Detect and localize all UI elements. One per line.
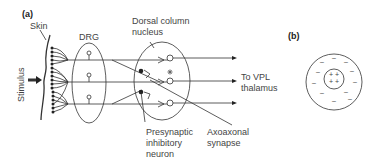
receptor-branches [52, 48, 68, 112]
neural-circuit-diagram: ++ ++ – –– –– –– –– –– [0, 0, 380, 165]
receptor-endings [51, 47, 55, 114]
svg-text:–: – [344, 58, 348, 65]
svg-text:–: – [312, 79, 316, 86]
svg-text:+: + [329, 78, 333, 85]
skin-line [41, 35, 50, 120]
svg-text:+: + [335, 78, 339, 85]
svg-text:–: – [350, 67, 354, 74]
arrowheads [232, 56, 237, 105]
svg-text:–: – [332, 54, 336, 61]
svg-text:+: + [335, 71, 339, 78]
drg-cell-bodies [87, 51, 91, 104]
svg-text:–: – [348, 95, 352, 102]
svg-text:–: – [320, 58, 324, 65]
svg-text:–: – [332, 97, 336, 104]
svg-text:+: + [329, 71, 333, 78]
svg-text:–: – [320, 89, 324, 96]
svg-text:–: – [316, 68, 320, 75]
svg-text:–: – [344, 88, 348, 95]
svg-text:–: – [353, 78, 357, 85]
axoaxonal-synapse-marker [168, 70, 172, 74]
presynaptic-inhibitory-neurons [139, 69, 144, 95]
